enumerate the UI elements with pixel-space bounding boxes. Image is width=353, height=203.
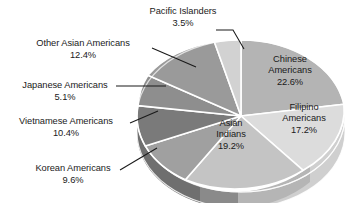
inline-name-asian-indians-line1: Asian [196,118,266,129]
inline-percent-chinese: 22.6% [252,77,328,88]
inline-label-filipino-americans: Filipino Americans 17.2% [264,102,344,136]
callout-name-other-asian-americans: Other Asian Americans [36,38,130,48]
callout-percent-vietnamese-americans: 10.4% [2,128,130,140]
callout-name-korean-americans: Korean Americans [35,163,110,173]
callout-label-pacific-islanders: Pacific Islanders 3.5% [141,6,225,29]
callout-name-japanese-americans: Japanese Americans [22,80,107,90]
callout-percent-other-asian-americans: 12.4% [20,50,146,62]
inline-label-asian-indians: Asian Indians 19.2% [196,118,266,152]
callout-label-japanese-americans: Japanese Americans 5.1% [12,80,118,103]
inline-name-chinese-line2: Americans [252,65,328,76]
inline-name-filipino-line1: Filipino [264,102,344,113]
callout-label-korean-americans: Korean Americans 9.6% [24,163,122,186]
inline-percent-asian-indians: 19.2% [196,141,266,152]
inline-name-chinese-line1: Chinese [252,54,328,65]
callout-name-vietnamese-americans: Vietnamese Americans [19,116,113,126]
callout-percent-japanese-americans: 5.1% [12,92,118,104]
callout-percent-pacific-islanders: 3.5% [141,18,225,30]
inline-name-filipino-line2: Americans [264,113,344,124]
callout-percent-korean-americans: 9.6% [24,175,122,187]
pie-chart-figure: Pacific Islanders 3.5% Other Asian Ameri… [0,0,353,203]
callout-name-pacific-islanders: Pacific Islanders [150,6,217,16]
inline-name-asian-indians-line2: Indians [196,129,266,140]
inline-label-chinese-americans: Chinese Americans 22.6% [252,54,328,88]
callout-label-other-asian-americans: Other Asian Americans 12.4% [20,38,146,61]
callout-label-vietnamese-americans: Vietnamese Americans 10.4% [2,116,130,139]
inline-percent-filipino: 17.2% [264,125,344,136]
